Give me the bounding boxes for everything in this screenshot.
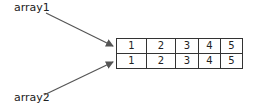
array-cell: 4 (199, 39, 221, 54)
array-cell: 4 (199, 54, 221, 69)
array-cell: 5 (221, 54, 243, 69)
array-cell: 3 (176, 54, 199, 69)
array-cell: 3 (176, 39, 199, 54)
array-cell: 2 (147, 39, 176, 54)
table-row: 1 2 3 4 5 (117, 54, 243, 69)
array1-arrow (46, 13, 113, 46)
array-cell: 1 (117, 39, 147, 54)
array2-arrow (44, 62, 113, 95)
table-row: 1 2 3 4 5 (117, 39, 243, 54)
array-cell: 2 (147, 54, 176, 69)
array-table: 1 2 3 4 5 1 2 3 4 5 (116, 38, 243, 69)
array-cell: 5 (221, 39, 243, 54)
array-cell: 1 (117, 54, 147, 69)
